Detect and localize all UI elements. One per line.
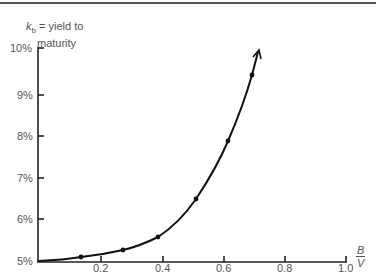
yield-curve: [38, 52, 258, 261]
axes: [37, 47, 347, 262]
chart-plot: [0, 0, 376, 274]
